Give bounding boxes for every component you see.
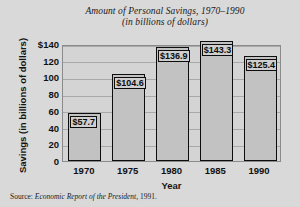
y-tick-label: 100 (0, 73, 59, 83)
bar-chart-figure: Amount of Personal Savings, 1970–1990 (i… (0, 0, 300, 207)
bar-value-label: $136.9 (158, 50, 190, 62)
source-prefix: Source: (10, 192, 33, 201)
bar-value-label: $143.3 (202, 44, 234, 56)
x-axis-title: Year (62, 180, 281, 191)
x-tick-label: 1980 (150, 165, 194, 176)
y-tick-label: 40 (0, 124, 59, 134)
y-tick-label: $140 (0, 40, 59, 50)
bar (156, 47, 189, 161)
bar (244, 56, 277, 161)
x-tick-label: 1970 (62, 165, 106, 176)
chart-title-subtitle: (in billions of dollars) (40, 17, 290, 28)
bar-value-label: $104.6 (114, 77, 146, 89)
source-year: 1991. (140, 192, 157, 201)
bar-value-label: $125.4 (246, 59, 278, 71)
source-publication: Economic Report of the President, (35, 192, 138, 201)
y-tick-label: 60 (0, 107, 59, 117)
chart-title-main: Amount of Personal Savings, 1970–1990 (40, 6, 290, 17)
x-tick-label: 1985 (193, 165, 237, 176)
y-tick-label: 20 (0, 140, 59, 150)
chart-title: Amount of Personal Savings, 1970–1990 (i… (40, 6, 290, 28)
y-tick-label: 0 (0, 157, 59, 167)
x-tick-label: 1975 (106, 165, 150, 176)
x-tick-label: 1990 (237, 165, 281, 176)
source-note: Source: Economic Report of the President… (10, 192, 157, 201)
bar (200, 41, 233, 161)
y-tick-label: 120 (0, 57, 59, 67)
bar-value-label: $57.7 (70, 116, 97, 128)
y-tick-label: 80 (0, 90, 59, 100)
